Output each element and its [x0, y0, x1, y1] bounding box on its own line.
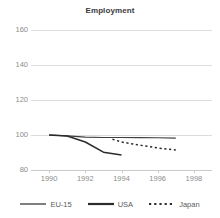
- legend-label: EU-15: [50, 200, 71, 209]
- x-tick-mark: [194, 170, 195, 173]
- series-line-japan: [112, 139, 175, 150]
- y-tick-label: 80: [4, 165, 28, 174]
- legend-label: Japan: [179, 200, 199, 209]
- x-axis-tick-labels: 19901992199419961998: [31, 174, 212, 186]
- x-tick-label: 1994: [107, 174, 137, 183]
- x-tick-mark: [49, 170, 50, 173]
- x-tick-label: 1998: [179, 174, 209, 183]
- legend-swatch-icon: [149, 200, 175, 208]
- y-tick-label: 160: [4, 25, 28, 34]
- x-tick-label: 1996: [143, 174, 173, 183]
- x-tick-label: 1992: [70, 174, 100, 183]
- legend-item-japan[interactable]: Japan: [149, 200, 199, 209]
- y-tick-label: 100: [4, 130, 28, 139]
- plot-area: [31, 30, 212, 170]
- y-tick-label: 120: [4, 95, 28, 104]
- x-tick-label: 1990: [34, 174, 64, 183]
- legend-swatch-icon: [20, 200, 46, 208]
- legend-swatch-icon: [88, 200, 114, 208]
- y-axis-tick-labels: 80100120140160: [0, 30, 28, 170]
- x-tick-mark: [122, 170, 123, 173]
- legend-item-eu-15[interactable]: EU-15: [20, 200, 71, 209]
- legend-label: USA: [118, 200, 133, 209]
- legend-item-usa[interactable]: USA: [88, 200, 133, 209]
- x-tick-mark: [158, 170, 159, 173]
- chart-legend: EU-15USAJapan: [0, 196, 220, 212]
- series-lines: [31, 30, 212, 170]
- chart-title: Employment: [0, 6, 220, 15]
- y-tick-label: 140: [4, 60, 28, 69]
- employment-line-chart: Employment 80100120140160 19901992199419…: [0, 0, 220, 218]
- x-tick-mark: [85, 170, 86, 173]
